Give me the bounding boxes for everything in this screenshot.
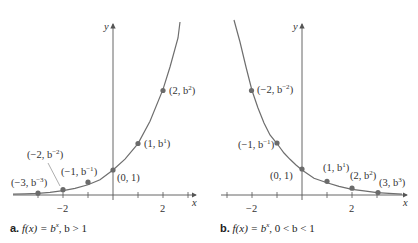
point-a-1 [135, 141, 140, 146]
label-a-1: (1, b1) [144, 137, 171, 150]
label-a-0: (0, 1) [117, 172, 140, 184]
label-a-m1: (−1, b−1) [61, 165, 98, 178]
point-b-m1 [274, 140, 279, 145]
point-b-2 [349, 186, 354, 191]
point-b-m2 [249, 88, 254, 93]
panel-a-leader-line [48, 163, 60, 186]
point-a-0 [110, 167, 115, 172]
panel-b-chart: y x −2 2 (−2, b−2) (−1, b−1) (0, 1) (1, … [221, 20, 408, 214]
point-a-2 [160, 88, 165, 93]
label-a-m2: (−2, b−2) [27, 148, 64, 161]
panel-b-x-label: x [402, 197, 408, 208]
point-a-m3 [35, 191, 40, 196]
point-b-1 [324, 179, 329, 184]
panel-b-caption-letter: b. [220, 222, 230, 234]
panel-b-decay-curve [234, 20, 402, 194]
panel-a-caption: a. f(x) = bx, b > 1 [10, 221, 87, 234]
panel-a-caption-formula: f(x) = b [22, 222, 56, 234]
panel-a-tick-neg2: −2 [57, 203, 68, 214]
panel-b-caption: b. f(x) = bx, 0 < b < 1 [220, 221, 315, 234]
panel-a-y-label: y [103, 21, 109, 32]
label-b-m2: (−2, b−2) [257, 83, 294, 96]
label-b-0: (0, 1) [270, 170, 293, 182]
label-b-3: (3, b3) [379, 176, 406, 189]
point-b-3 [375, 190, 380, 195]
panel-a-caption-condition: , b > 1 [59, 222, 87, 234]
panel-b-caption-formula: f(x) = b [233, 222, 267, 234]
label-b-1: (1, b1) [323, 161, 350, 174]
panel-a-x-label: x [191, 197, 197, 208]
label-a-m3: (−3, b−3) [11, 176, 48, 189]
panel-a-chart: y x −2 2 (−3, b−3) (−2, b−2) (−1, b−1) (… [11, 21, 197, 214]
panel-b-y-label: y [292, 21, 298, 32]
point-a-m2 [60, 187, 65, 192]
figure-canvas: y x −2 2 (−3, b−3) (−2, b−2) (−1, b−1) (… [0, 0, 418, 243]
point-a-m1 [85, 180, 90, 185]
panel-b-tick-pos2: 2 [349, 203, 354, 214]
point-b-0 [299, 166, 304, 171]
panel-b-tick-neg2: −2 [246, 203, 257, 214]
panel-a-caption-letter: a. [10, 222, 19, 234]
panel-a-tick-pos2: 2 [160, 203, 165, 214]
label-a-2: (2, b2) [169, 84, 196, 97]
label-b-m1: (−1, b−1) [238, 138, 275, 151]
panel-b-caption-condition: , 0 < b < 1 [269, 222, 314, 234]
label-b-2: (2, b2) [350, 169, 377, 182]
